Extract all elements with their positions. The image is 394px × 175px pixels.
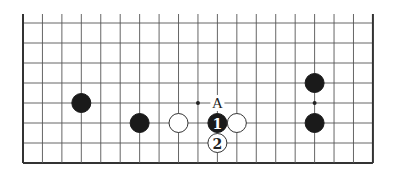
black-stone: [305, 114, 324, 133]
black-stone-icon: [305, 74, 324, 93]
point-labels: A: [210, 95, 224, 111]
point-label-a: A: [212, 95, 223, 111]
move-number: 1: [213, 116, 223, 132]
black-stone-icon: [305, 114, 324, 133]
go-board-diagram: A 12: [0, 0, 394, 175]
white-stone-move-2: 2: [208, 134, 227, 153]
white-stone-icon: [227, 114, 246, 133]
white-stone: [169, 114, 188, 133]
point-marker-dot: [196, 101, 200, 105]
black-stone-icon: [130, 114, 149, 133]
black-stone: [130, 114, 149, 133]
black-stone-move-1: 1: [208, 114, 227, 133]
white-stone-icon: [169, 114, 188, 133]
point-marker-dot: [313, 101, 317, 105]
black-stone: [305, 74, 324, 93]
black-stone-icon: [72, 94, 91, 113]
black-stone: [72, 94, 91, 113]
white-stone: [227, 114, 246, 133]
move-number: 2: [213, 136, 223, 152]
